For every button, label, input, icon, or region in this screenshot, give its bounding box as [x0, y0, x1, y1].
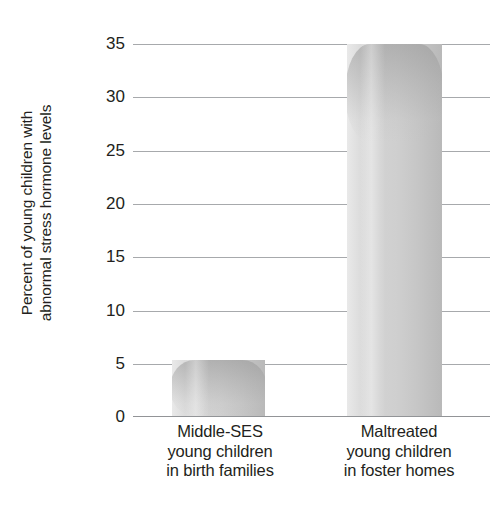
y-tick-label-0: 0 [55, 408, 125, 425]
x-category-label-maltreated-line-3: in foster homes [313, 461, 485, 481]
y-tick-label-35: 35 [55, 35, 125, 52]
bar-chart: Percent of young children with abnormal … [0, 0, 501, 505]
y-tick-label-10: 10 [55, 302, 125, 319]
gridline-0-baseline [133, 416, 490, 417]
x-category-label-middle-ses-line-2: young children [135, 442, 305, 462]
bar-middle-ses[interactable] [172, 360, 265, 416]
bar-cap-icon [172, 360, 265, 416]
y-tick-label-25: 25 [55, 142, 125, 159]
y-tick-label-30: 30 [55, 88, 125, 105]
x-category-label-maltreated-line-1: Maltreated [313, 422, 485, 442]
x-category-label-middle-ses-line-1: Middle-SES [135, 422, 305, 442]
bar-gloss-icon [360, 44, 385, 416]
y-tick-label-15: 15 [55, 248, 125, 265]
bar-gloss-icon [185, 360, 209, 416]
x-axis-category-labels: Middle-SES young children in birth famil… [133, 422, 490, 502]
y-axis-title-line-2: abnormal stress hormone levels [36, 104, 55, 321]
bar-cap-icon [347, 44, 442, 142]
x-category-label-middle-ses-line-3: in birth families [135, 461, 305, 481]
y-tick-label-5: 5 [55, 355, 125, 372]
y-axis-title-line-1: Percent of young children with [17, 104, 36, 321]
x-category-label-maltreated-line-2: young children [313, 442, 485, 462]
y-tick-label-20: 20 [55, 195, 125, 212]
x-category-label-middle-ses: Middle-SES young children in birth famil… [135, 422, 305, 481]
plot-area [133, 44, 490, 417]
x-category-label-maltreated: Maltreated young children in foster home… [313, 422, 485, 481]
bar-maltreated[interactable] [347, 44, 442, 416]
